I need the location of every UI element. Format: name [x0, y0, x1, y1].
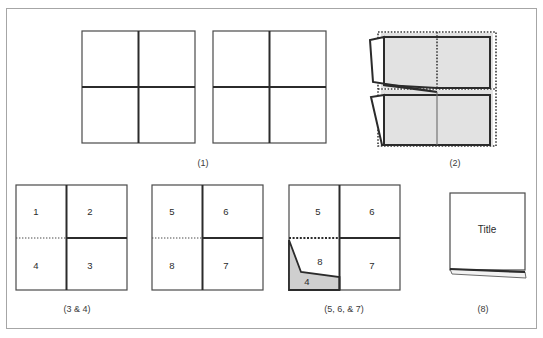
wedge-label-4: 4 [304, 276, 309, 287]
folding-sequence-diagram: (1) (2) 1 2 4 3 (3 & 4) [0, 0, 543, 338]
quadrant-label-5: 5 [315, 206, 320, 217]
shaded-quadrant-bottom-right [437, 90, 493, 145]
shaded-quadrant-bottom-left [381, 90, 437, 145]
quadrant-label-6: 6 [223, 206, 228, 217]
booklet-title-label: Title [478, 224, 497, 235]
figure-container: (1) (2) 1 2 4 3 (3 & 4) [0, 0, 543, 338]
quadrant-label-3: 3 [87, 260, 92, 271]
quadrant-label-8: 8 [169, 260, 174, 271]
quadrant-label-4: 4 [33, 260, 38, 271]
shaded-quadrant-top-right [437, 33, 493, 88]
panel-3-and-4-caption: (3 & 4) [63, 304, 90, 314]
panel-1-caption: (1) [198, 158, 209, 168]
panel-8-caption: (8) [478, 304, 489, 314]
quadrant-label-1: 1 [33, 206, 38, 217]
quadrant-label-8: 8 [317, 256, 322, 267]
panel-2-caption: (2) [450, 158, 461, 168]
quadrant-label-6: 6 [369, 206, 374, 217]
quadrant-label-7: 7 [223, 260, 228, 271]
quadrant-label-7: 7 [369, 260, 374, 271]
quadrant-label-5: 5 [169, 206, 174, 217]
quadrant-label-2: 2 [87, 206, 92, 217]
panel-5-6-and-7-caption: (5, 6, & 7) [324, 304, 364, 314]
shaded-quadrant-top-left [381, 33, 437, 88]
